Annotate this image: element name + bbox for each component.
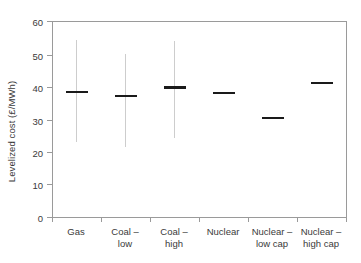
levelized-cost-chart: Levelized cost (£/MWh) 0 10 20 30 40 50 … xyxy=(0,0,361,263)
y-tick-30: 30 xyxy=(47,120,52,121)
y-axis-title: Levelized cost (£/MWh) xyxy=(0,0,22,263)
y-tick-20: 20 xyxy=(47,152,52,153)
y-tick-40: 40 xyxy=(47,87,52,88)
x-tick-5 xyxy=(297,217,298,222)
y-tick-label-10: 10 xyxy=(32,179,43,190)
y-tick-10: 10 xyxy=(47,184,52,185)
x-tick-2 xyxy=(150,217,151,222)
y-tick-50: 50 xyxy=(47,55,52,56)
value-marker xyxy=(66,91,88,94)
value-marker xyxy=(213,92,235,95)
value-marker xyxy=(115,95,137,98)
plot-frame-right xyxy=(346,21,347,218)
y-tick-label-60: 60 xyxy=(32,16,43,27)
y-tick-label-40: 40 xyxy=(32,82,43,93)
y-tick-60: 60 xyxy=(47,21,52,22)
x-category-line2: high cap xyxy=(286,238,356,250)
y-axis-line xyxy=(52,21,53,218)
y-tick-label-20: 20 xyxy=(32,147,43,158)
x-tick-0 xyxy=(52,217,53,222)
x-tick-4 xyxy=(248,217,249,222)
range-whisker xyxy=(174,41,175,138)
x-tick-6 xyxy=(346,217,347,222)
x-tick-3 xyxy=(199,217,200,222)
plot-frame-top xyxy=(52,21,347,22)
y-tick-label-30: 30 xyxy=(32,115,43,126)
x-tick-1 xyxy=(101,217,102,222)
y-tick-label-50: 50 xyxy=(32,50,43,61)
value-marker xyxy=(262,117,284,120)
value-marker xyxy=(164,86,186,89)
plot-area: 0 10 20 30 40 50 60 Gas xyxy=(52,21,347,218)
range-whisker xyxy=(125,54,126,147)
value-marker xyxy=(311,82,333,85)
x-category-line1: Nuclear – xyxy=(286,226,356,238)
x-category-line2: high xyxy=(139,238,209,250)
y-tick-label-0: 0 xyxy=(38,212,43,223)
x-category-label-nuclear-high-cap: Nuclear – high cap xyxy=(286,226,356,250)
